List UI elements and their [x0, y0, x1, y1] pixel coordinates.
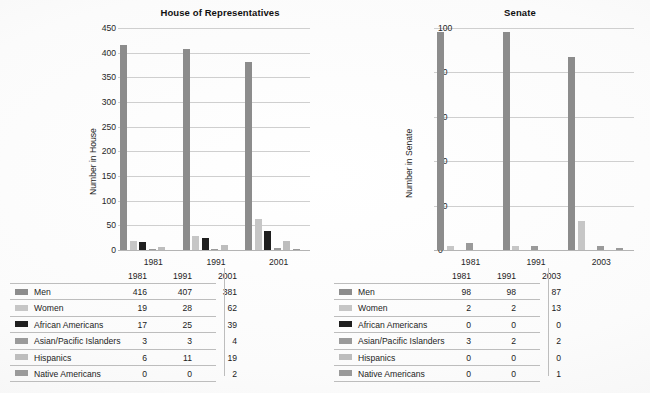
row-label: Asian/Pacific Islanders [34, 336, 120, 346]
bar-house-2001-native-americans [293, 249, 300, 251]
table-cell: 0 [482, 353, 516, 363]
gridline-house-50 [118, 225, 310, 226]
table-cell: 2 [527, 336, 561, 346]
table-row: African Americans000 [334, 316, 540, 332]
house-table-right-rule [224, 268, 225, 376]
row-label: African Americans [358, 320, 427, 330]
gridline-senate-80 [434, 72, 634, 73]
table-cell: 2 [482, 303, 516, 313]
y-tick-label: 100 [90, 196, 116, 206]
row-label: Native Americans [358, 369, 425, 379]
bar-house-2001-women [255, 219, 262, 250]
table-row: Hispanics000 [334, 349, 540, 365]
bar-house-1991-african-americans [202, 238, 209, 250]
table-cell: 407 [158, 287, 192, 297]
table-cell: 87 [527, 287, 561, 297]
table-cell: 28 [158, 303, 192, 313]
bar-senate-2003-asian-pacific-islanders [597, 246, 604, 250]
table-cell: 416 [113, 287, 147, 297]
bar-house-1991-women [192, 236, 199, 250]
table-cell: 19 [113, 303, 147, 313]
gridline-house-200 [118, 151, 310, 152]
x-tick-label-1981: 1981 [438, 257, 503, 267]
x-tick-label-2001: 2001 [247, 257, 310, 267]
gridline-house-250 [118, 127, 310, 128]
senate-data-table: 198119912003Men989887Women2213African Am… [334, 268, 540, 382]
x-tick-label-1991: 1991 [185, 257, 248, 267]
table-header-row: 198119912003 [334, 268, 540, 283]
gridline-house-300 [118, 102, 310, 103]
bar-house-1991-asian-pacific-islanders [211, 249, 218, 251]
table-cell: 25 [158, 320, 192, 330]
house-y-axis-label: Number in House [88, 128, 98, 195]
table-row: Women192862 [10, 299, 216, 315]
y-tick-label: 400 [90, 48, 116, 58]
legend-swatch-icon [15, 305, 28, 311]
bar-house-2001-african-americans [264, 231, 271, 250]
table-cell: 381 [203, 287, 237, 297]
legend-swatch-icon [15, 338, 28, 344]
table-cell: 0 [113, 369, 147, 379]
gridline-house-350 [118, 77, 310, 78]
table-cell: 0 [158, 369, 192, 379]
legend-swatch-icon [339, 338, 352, 344]
gridline-house-0 [118, 250, 310, 251]
table-row: Hispanics61119 [10, 349, 216, 365]
row-label: Men [34, 287, 51, 297]
table-cell: 3 [113, 336, 147, 346]
gridline-house-100 [118, 201, 310, 202]
table-cell: 0 [437, 369, 471, 379]
y-tick-label: 300 [90, 97, 116, 107]
legend-swatch-icon [15, 370, 28, 376]
bar-senate-1981-women [447, 246, 454, 250]
legend-swatch-icon [15, 289, 28, 295]
house-data-table: 198119912001Men416407381Women192862Afric… [10, 268, 216, 382]
house-plot-area: 050100150200250300350400450198119912001 [122, 28, 310, 250]
table-cell: 62 [203, 303, 237, 313]
table-cell: 98 [482, 287, 516, 297]
row-label: Hispanics [34, 353, 71, 363]
y-tick-label: 450 [90, 23, 116, 33]
table-cell: 11 [158, 353, 192, 363]
bar-house-1981-men [120, 45, 127, 250]
table-cell: 17 [113, 320, 147, 330]
table-cell: 0 [482, 369, 516, 379]
row-label: Hispanics [358, 353, 395, 363]
bar-house-1991-men [183, 49, 190, 250]
legend-swatch-icon [339, 305, 352, 311]
table-row: Asian/Pacific Islanders334 [10, 332, 216, 348]
y-tick-label: 0 [90, 245, 116, 255]
y-tick-label: 200 [90, 146, 116, 156]
table-row: Men416407381 [10, 283, 216, 299]
bar-house-1981-women [130, 241, 137, 250]
table-row: Women2213 [334, 299, 540, 315]
house-panel: House of Representatives Number in House… [0, 0, 325, 393]
bar-house-1981-asian-pacific-islanders [149, 249, 156, 251]
y-tick-label: 250 [90, 122, 116, 132]
senate-chart-title: Senate [425, 7, 615, 18]
table-row: Native Americans001 [334, 365, 540, 382]
table-cell: 2 [482, 336, 516, 346]
senate-y-axis-label: Number in Senate [404, 129, 414, 198]
table-cell: 3 [437, 336, 471, 346]
table-row: Men989887 [334, 283, 540, 299]
y-tick-label: 350 [90, 72, 116, 82]
column-header-1981: 1981 [113, 271, 147, 281]
table-row: African Americans172539 [10, 316, 216, 332]
table-row: Native Americans002 [10, 365, 216, 382]
legend-swatch-icon [339, 289, 352, 295]
table-cell: 4 [203, 336, 237, 346]
bar-senate-1991-asian-pacific-islanders [531, 246, 538, 250]
row-label: Women [34, 303, 63, 313]
bar-house-2001-hispanics [283, 241, 290, 250]
gridline-senate-20 [434, 206, 634, 207]
row-label: Asian/Pacific Islanders [358, 336, 444, 346]
bar-house-1991-hispanics [221, 245, 228, 250]
table-cell: 39 [203, 320, 237, 330]
row-label: Women [358, 303, 387, 313]
gridline-house-150 [118, 176, 310, 177]
gridline-senate-40 [434, 161, 634, 162]
bar-senate-2003-men [568, 57, 575, 250]
legend-swatch-icon [339, 370, 352, 376]
senate-table-right-rule [548, 268, 549, 376]
